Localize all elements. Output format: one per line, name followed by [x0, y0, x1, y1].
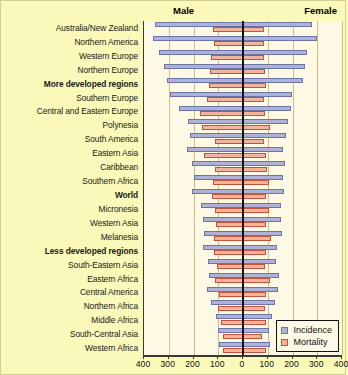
mortality-bar	[223, 348, 266, 353]
x-axis-tick-label: 100	[260, 359, 274, 369]
category-label: Western Asia	[1, 216, 142, 230]
category-label: Central and Eastern Europe	[1, 105, 142, 119]
mortality-swatch-icon	[281, 339, 288, 346]
x-axis-tick-label: 400	[136, 359, 150, 369]
incidence-bar	[155, 22, 312, 27]
x-axis-tick-label: 200	[185, 359, 199, 369]
chart-legend: Incidence Mortality	[276, 320, 339, 352]
mortality-bar	[200, 111, 265, 116]
incidence-bar	[167, 78, 303, 83]
mortality-bar	[212, 194, 267, 199]
mortality-bar	[207, 97, 264, 102]
category-label: Northern Europe	[1, 63, 142, 77]
category-label: Middle Africa	[1, 313, 142, 327]
category-label: Southern Africa	[1, 174, 142, 188]
category-labels-column: Australia/New ZealandNorthern AmericaWes…	[1, 21, 142, 355]
category-label: South-Central Asia	[1, 327, 142, 341]
chart-header: Male Female	[1, 5, 341, 19]
incidence-bar	[216, 314, 272, 319]
category-label: Northern America	[1, 35, 142, 49]
mortality-bar	[215, 167, 267, 172]
x-axis-tick-label: 100	[210, 359, 224, 369]
category-label: Western Europe	[1, 49, 142, 63]
mortality-bar	[202, 125, 271, 130]
incidence-bar	[203, 245, 278, 250]
gridline	[194, 21, 195, 355]
category-label: Northern Africa	[1, 299, 142, 313]
mortality-bar	[214, 41, 264, 46]
category-label: Western Africa	[1, 341, 142, 355]
category-label: South America	[1, 132, 142, 146]
female-side-label: Female	[304, 5, 337, 17]
category-label: Australia/New Zealand	[1, 21, 142, 35]
x-axis-tick-label: 400	[334, 359, 348, 369]
category-label: More developed regions	[1, 77, 142, 91]
mortality-bar	[213, 27, 264, 32]
gridline	[317, 21, 318, 355]
male-side-label: Male	[173, 5, 194, 17]
category-label: Melanesia	[1, 230, 142, 244]
mortality-bar	[216, 222, 266, 227]
category-label: Southern Europe	[1, 91, 142, 105]
category-label: Eastern Asia	[1, 146, 142, 160]
category-label: Micronesia	[1, 202, 142, 216]
gridline	[293, 21, 294, 355]
category-label: Less developed regions	[1, 244, 142, 258]
incidence-bar	[192, 189, 284, 194]
mortality-bar	[214, 250, 266, 255]
mortality-bar	[217, 264, 266, 269]
incidence-bar	[194, 175, 283, 180]
zero-axis-line	[242, 21, 243, 355]
incidence-bar	[153, 36, 316, 41]
mortality-bar	[215, 139, 264, 144]
incidence-bar	[219, 342, 270, 347]
legend-item-incidence: Incidence	[281, 324, 332, 336]
gridline	[342, 21, 343, 355]
incidence-bar	[188, 119, 288, 124]
incidence-bar	[187, 147, 283, 152]
x-axis-tick-label: 0	[240, 359, 245, 369]
mortality-bar	[209, 83, 266, 88]
category-label: Caribbean	[1, 160, 142, 174]
incidence-bar	[192, 161, 285, 166]
mortality-bar	[211, 55, 264, 60]
category-label: World	[1, 188, 142, 202]
legend-label-mortality: Mortality	[293, 336, 327, 348]
legend-label-incidence: Incidence	[293, 324, 332, 336]
plot-area	[143, 21, 341, 355]
category-label: South-Eastern Asia	[1, 258, 142, 272]
category-label: Central America	[1, 286, 142, 300]
x-axis-tick-label: 300	[309, 359, 323, 369]
mortality-bar	[204, 153, 265, 158]
incidence-bar	[209, 273, 279, 278]
incidence-swatch-icon	[281, 327, 288, 334]
legend-item-mortality: Mortality	[281, 336, 332, 348]
incidence-bar	[190, 133, 287, 138]
mortality-bar	[210, 69, 265, 74]
incidence-bar	[159, 50, 307, 55]
gridline	[169, 21, 170, 355]
category-label: Polynesia	[1, 118, 142, 132]
incidence-bar	[164, 64, 306, 69]
mortality-bar	[213, 180, 269, 185]
category-label: Eastern Africa	[1, 272, 142, 286]
x-axis-tick-label: 200	[284, 359, 298, 369]
x-axis-tick-label: 300	[161, 359, 175, 369]
incidence-bar	[170, 92, 293, 97]
incidence-bar	[179, 106, 291, 111]
